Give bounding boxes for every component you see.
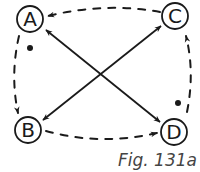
edge-a-d [46, 30, 160, 122]
edge-c-to-a [48, 8, 160, 16]
node-c-label: C [168, 4, 182, 28]
edge-b-to-d [46, 131, 157, 139]
edge-b-c [43, 26, 161, 120]
node-a-label: A [23, 7, 37, 31]
node-d: D [161, 100, 187, 145]
node-c: C [162, 3, 188, 29]
node-d-label: D [166, 120, 181, 144]
node-b-label: B [21, 118, 35, 142]
node-a: A [17, 6, 43, 51]
node-d-dot [175, 100, 181, 106]
node-b: B [15, 117, 41, 143]
edge-d-to-c [186, 36, 191, 112]
solid-edges [43, 26, 161, 122]
graph-diagram: A B C D [0, 0, 200, 172]
node-a-dot [27, 45, 33, 51]
figure-caption: Fig. 131a [118, 150, 197, 170]
edge-a-to-b [14, 36, 19, 113]
